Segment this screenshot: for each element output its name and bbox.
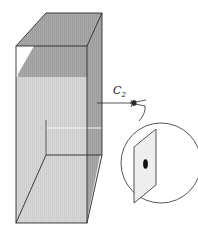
tank-diagram: C2 [0,0,198,240]
observer-label: C2 [113,84,126,99]
tank-front-face-lower [16,77,87,223]
magnified-inset [121,123,198,203]
tank-right-face [87,13,102,223]
observer-c2: C2 [97,84,146,121]
plate-spot [143,159,148,169]
eye-icon [130,100,146,107]
tank [16,13,102,223]
inset-circle [121,123,198,203]
callout-curve [139,106,145,121]
